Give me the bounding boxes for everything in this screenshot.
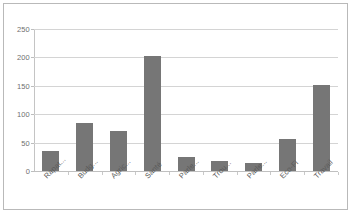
y-tick-label-250: 250 [17, 25, 30, 34]
gridline-200 [34, 57, 338, 58]
y-tickmark-0 [31, 171, 34, 172]
y-tick-label-150: 150 [17, 81, 30, 90]
y-tickmark-50 [31, 143, 34, 144]
y-tickmark-200 [31, 57, 34, 58]
y-tick-label-200: 200 [17, 53, 30, 62]
y-tickmark-100 [31, 114, 34, 115]
y-axis-tick-labels: 050100150200250 [4, 29, 30, 171]
bar [144, 56, 161, 171]
y-tickmark-150 [31, 86, 34, 87]
x-tickmark [338, 172, 339, 175]
y-tickmark-250 [31, 29, 34, 30]
chart-frame: 050100150200250 Rapat...Budg...Agric...S… [3, 3, 348, 210]
gridline-100 [34, 114, 338, 115]
plot-area [34, 29, 338, 171]
y-tick-label-50: 50 [21, 138, 30, 147]
y-tick-label-100: 100 [17, 110, 30, 119]
y-tick-label-0: 0 [26, 167, 30, 176]
gridline-150 [34, 86, 338, 87]
gridline-250 [34, 29, 338, 30]
x-axis-tick-labels: Rapat...Budg...Agric...SantéParle...Trou… [34, 174, 338, 210]
